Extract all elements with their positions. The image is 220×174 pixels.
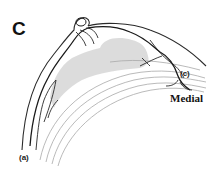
panel-letter: C (12, 19, 26, 38)
nodule (76, 18, 86, 26)
anatomical-illustration: C (c) Medial (a) (0, 0, 220, 174)
illustration-drawing (0, 0, 220, 174)
label-medial: Medial (170, 93, 203, 104)
label-c: (c) (180, 70, 190, 78)
label-a: (a) (19, 154, 29, 162)
